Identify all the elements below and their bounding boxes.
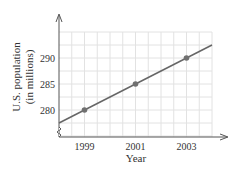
y-tick-label: 290 (40, 53, 55, 64)
axis-break-icon (57, 127, 61, 137)
x-tick-label: 2001 (126, 141, 146, 152)
axes (56, 14, 228, 140)
x-axis-label: Year (126, 152, 147, 164)
x-tick-label: 2003 (177, 141, 197, 152)
data-point (184, 55, 190, 61)
y-tick-label: 285 (40, 79, 55, 90)
data-point (133, 81, 139, 87)
y-tick-label: 280 (40, 105, 55, 116)
data-point (82, 107, 88, 113)
x-tick-label: 1999 (75, 141, 95, 152)
population-line-chart: 199920012003280285290 Year U.S. populati… (0, 0, 242, 179)
y-axis-label-line1: U.S. population (10, 42, 22, 112)
y-axis-label-line2: (in millions) (23, 49, 36, 104)
